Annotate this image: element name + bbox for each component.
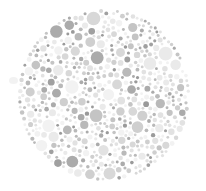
faint-smudge-artifact: [9, 77, 18, 84]
dot-group: [18, 9, 190, 181]
ishihara-plate-image: [0, 0, 206, 191]
dot-field: [0, 0, 206, 191]
